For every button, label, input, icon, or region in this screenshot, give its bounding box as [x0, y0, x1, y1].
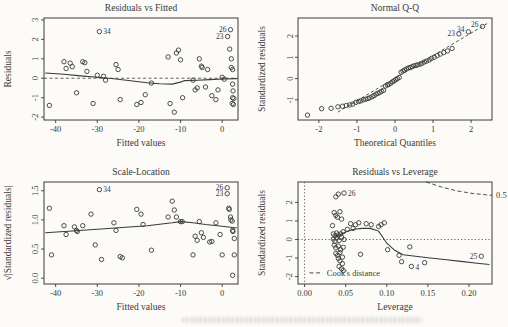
y-axis-label: Residuals	[3, 50, 13, 87]
y-tick-label: 0	[31, 76, 41, 80]
data-point	[112, 221, 116, 225]
data-point	[214, 221, 218, 225]
x-axis-label: Theoretical Quantiles	[354, 138, 436, 148]
x-tick-label: -10	[175, 124, 186, 134]
data-point	[330, 223, 334, 227]
data-point	[139, 100, 143, 104]
data-point	[225, 34, 229, 38]
x-tick-label: -2	[315, 124, 322, 134]
data-point	[228, 28, 232, 32]
data-point	[143, 93, 147, 97]
data-point	[178, 58, 182, 62]
point-label: 26	[471, 20, 479, 29]
x-tick-label: 0	[220, 288, 224, 298]
point-label: 26	[348, 189, 356, 198]
data-point	[174, 215, 178, 219]
data-point	[166, 215, 170, 219]
data-point	[450, 46, 454, 50]
y-axis-label: Standardized residuals	[257, 26, 267, 112]
data-point	[480, 24, 484, 28]
data-point	[170, 199, 174, 203]
data-point	[203, 85, 207, 89]
data-point	[47, 206, 51, 210]
y-tick-label: 0	[285, 76, 295, 80]
y-tick-label: 1	[285, 219, 295, 223]
data-point	[114, 228, 118, 232]
data-point	[409, 264, 413, 268]
y-tick-label: -1	[285, 254, 295, 261]
data-point	[218, 232, 222, 236]
x-tick-label: 0.10	[379, 288, 394, 298]
data-point	[172, 208, 176, 212]
point-label: 34	[103, 185, 111, 194]
data-point	[118, 97, 122, 101]
data-point	[149, 248, 153, 252]
data-point	[47, 103, 51, 107]
panel-title: Residuals vs Leverage	[352, 167, 437, 177]
data-point	[168, 101, 172, 105]
y-tick-label: 0.5	[31, 244, 41, 255]
residuals-vs-leverage-plot: 0.000.050.100.150.20-2-1012Residuals vs …	[254, 164, 508, 327]
point-label: 34	[457, 25, 465, 34]
data-point	[62, 224, 66, 228]
point-label: 25	[470, 252, 478, 261]
data-point	[230, 82, 234, 86]
data-point	[74, 91, 78, 95]
cooks-distance-legend-label: Cook's distance	[327, 268, 380, 278]
data-point	[369, 223, 373, 227]
data-point	[231, 89, 235, 93]
data-point	[91, 101, 95, 105]
data-point	[339, 217, 343, 221]
data-point	[345, 227, 349, 231]
data-point	[114, 62, 118, 66]
data-point	[205, 67, 209, 71]
data-point	[199, 231, 203, 235]
y-tick-label: 3	[31, 18, 41, 22]
data-point	[97, 187, 101, 191]
contour-level-label: 0.5	[496, 190, 507, 200]
data-point	[89, 212, 93, 216]
x-tick-label: 1	[431, 124, 435, 134]
data-point	[166, 55, 170, 59]
point-label: 23	[216, 189, 224, 198]
x-tick-label: 0.15	[420, 288, 435, 298]
y-tick-label: 2	[285, 200, 295, 204]
x-axis-label: Fitted values	[117, 302, 166, 312]
faint-watermark-smudge	[182, 317, 422, 323]
data-point	[64, 66, 68, 70]
y-tick-label: -1	[285, 96, 295, 103]
x-tick-label: 0	[393, 124, 397, 134]
y-tick-label: 2	[31, 37, 41, 41]
data-point	[228, 47, 232, 51]
point-label: 23	[447, 29, 455, 38]
data-point	[93, 243, 97, 247]
data-point	[225, 186, 229, 190]
y-tick-label: 1.5	[31, 185, 41, 196]
x-axis-label: Leverage	[377, 302, 412, 312]
data-point	[338, 250, 342, 254]
data-point	[305, 113, 309, 117]
y-tick-label: 2	[285, 34, 295, 38]
y-tick-label: 1	[285, 55, 295, 59]
data-point	[210, 94, 214, 98]
x-tick-label: 2	[469, 124, 473, 134]
data-point	[385, 248, 389, 252]
y-tick-label: 1.0	[31, 215, 41, 226]
x-tick-label: 0	[220, 124, 224, 134]
data-point	[195, 238, 199, 242]
data-point	[336, 105, 340, 109]
data-point	[197, 57, 201, 61]
x-tick-label: -40	[50, 124, 61, 134]
y-tick-label: -2	[285, 273, 295, 280]
data-point	[329, 106, 333, 110]
normal-qq-plot: -2-1012-1012Normal Q-QTheoretical Quanti…	[254, 0, 508, 163]
data-point	[230, 101, 234, 105]
data-point	[99, 257, 103, 261]
x-tick-label: -20	[133, 124, 144, 134]
data-point	[135, 207, 139, 211]
cooks-distance-contour	[426, 182, 492, 195]
y-axis-label: Standardized residuals	[257, 190, 267, 276]
panel-title: Residuals vs Fitted	[105, 3, 178, 13]
x-tick-label: -30	[92, 124, 103, 134]
data-point	[399, 260, 403, 264]
